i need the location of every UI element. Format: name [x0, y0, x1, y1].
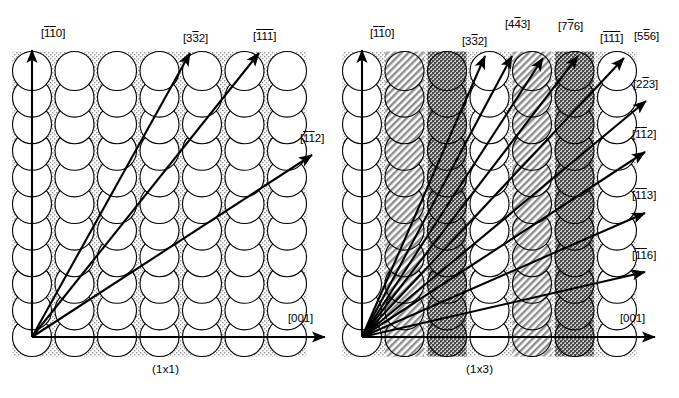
lattice-atom [555, 52, 594, 91]
figure-root: [110][332][111][112][001](1x1)[110][332]… [0, 0, 679, 398]
direction-vector-443-label: [443] [505, 19, 530, 31]
direction-vector-116-label: [116] [632, 250, 656, 262]
direction-vector-110-label: [110] [41, 28, 65, 40]
lattice-atom [428, 52, 467, 91]
direction-vector-111-label: [111] [600, 33, 623, 45]
panel-1x1-caption: (1x1) [152, 363, 179, 375]
direction-vector-111-label: [111] [253, 31, 276, 43]
panel-1x3 [343, 50, 656, 357]
direction-vector-776-label: [776] [558, 21, 583, 33]
direction-vector-112-label: [112] [632, 129, 656, 141]
lattice-atom [385, 52, 424, 91]
lattice-atom [268, 52, 307, 91]
direction-vector-001-label: [001] [288, 313, 313, 325]
crystal-direction-diagram [0, 0, 679, 398]
direction-vector-556-label: [556] [634, 31, 659, 43]
direction-vector-001-label: [001] [620, 313, 645, 325]
lattice-atom [55, 52, 94, 91]
lattice-atom [98, 52, 137, 91]
direction-vector-332-label: [332] [462, 36, 487, 48]
panel-1x1 [13, 50, 326, 357]
direction-vector-223-label: [223] [633, 79, 658, 91]
lattice-atom [513, 52, 552, 91]
direction-vector-112-label: [112] [300, 133, 324, 145]
direction-vector-332-label: [332] [183, 33, 208, 45]
lattice-atom [598, 52, 637, 91]
panel-1x3-caption: (1x3) [466, 363, 493, 375]
direction-vector-113-label: [113] [632, 190, 656, 202]
direction-vector-110-label: [110] [370, 28, 394, 40]
